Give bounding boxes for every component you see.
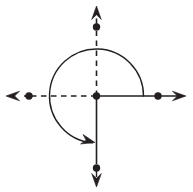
- figure-root: Coterminal rotation angle on coordinate …: [0, 0, 193, 192]
- angle-diagram-svg: Coterminal rotation angle on coordinate …: [0, 0, 193, 192]
- point-positive-y: [93, 23, 100, 30]
- positive-x-axis: [97, 91, 187, 101]
- point-negative-y: [93, 164, 100, 171]
- positive-y-axis: [92, 6, 102, 96]
- negative-x-axis: [6, 91, 97, 101]
- points-group: [25, 23, 161, 171]
- negative-x-axis-arrowhead: [6, 91, 20, 101]
- rotation-arc-arrowhead: [81, 134, 95, 144]
- point-positive-x: [154, 92, 161, 99]
- point-negative-x: [25, 92, 32, 99]
- positive-y-axis-arrowhead: [92, 6, 102, 20]
- origin-point: [93, 92, 100, 99]
